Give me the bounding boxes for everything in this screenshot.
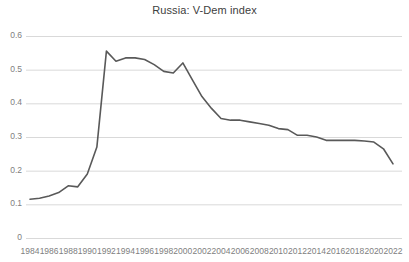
y-axis-tick-label: 0.5	[0, 64, 22, 74]
y-axis-tick-label: 0.3	[0, 131, 22, 141]
gridlines	[26, 37, 402, 239]
data-series-line	[30, 51, 393, 199]
y-axis-tick-label: 0.4	[0, 97, 22, 107]
plot-area	[0, 0, 409, 262]
x-axis-tick-label: 2022	[377, 246, 409, 256]
chart-container: Russia: V-Dem index 0.60.50.40.30.20.10 …	[0, 0, 409, 262]
y-axis-tick-label: 0.1	[0, 198, 22, 208]
series-line-vdem-index	[30, 51, 393, 199]
y-axis-tick-label: 0	[0, 232, 22, 242]
y-axis-tick-label: 0.2	[0, 165, 22, 175]
y-axis-tick-label: 0.6	[0, 30, 22, 40]
